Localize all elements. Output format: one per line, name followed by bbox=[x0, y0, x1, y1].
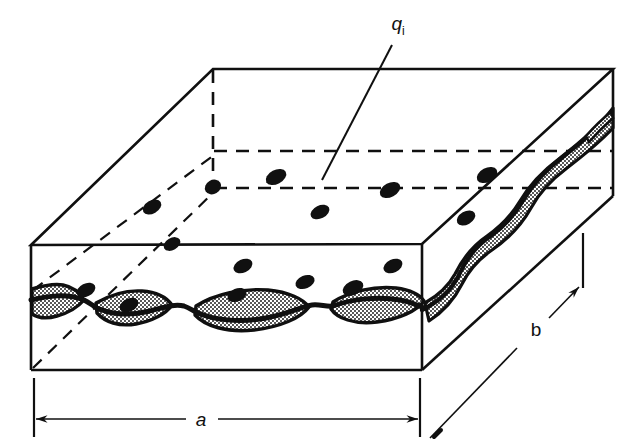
figure-root: qi a b bbox=[0, 0, 634, 444]
label-qi-symbol: q bbox=[391, 13, 402, 34]
label-qi-subscript: i bbox=[402, 24, 405, 38]
label-dimension-a: a bbox=[196, 409, 207, 430]
canvas-background bbox=[0, 0, 634, 444]
label-dimension-b: b bbox=[531, 319, 542, 340]
technical-diagram: qi a b bbox=[0, 0, 634, 444]
